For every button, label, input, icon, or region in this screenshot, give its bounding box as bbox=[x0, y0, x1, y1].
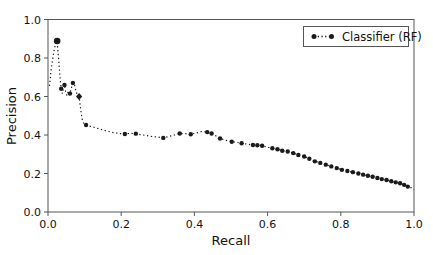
svg-text:0.0: 0.0 bbox=[39, 218, 57, 231]
legend-marker-line-icon bbox=[310, 32, 336, 41]
svg-text:0.6: 0.6 bbox=[259, 218, 277, 231]
y-axis-label: Precision bbox=[4, 87, 19, 145]
svg-text:0.6: 0.6 bbox=[24, 91, 42, 104]
x-axis-label: Recall bbox=[48, 233, 414, 248]
legend-label: Classifier (RF) bbox=[342, 30, 422, 44]
svg-text:0.0: 0.0 bbox=[24, 206, 42, 219]
svg-text:0.4: 0.4 bbox=[24, 129, 42, 142]
legend: Classifier (RF) bbox=[303, 26, 409, 47]
svg-text:0.2: 0.2 bbox=[24, 168, 42, 181]
svg-text:1.0: 1.0 bbox=[24, 14, 42, 27]
svg-text:1.0: 1.0 bbox=[405, 218, 423, 231]
pr-curve-figure: 0.00.20.40.60.81.00.00.20.40.60.81.0 Rec… bbox=[0, 0, 433, 255]
svg-text:0.8: 0.8 bbox=[332, 218, 350, 231]
svg-text:0.2: 0.2 bbox=[112, 218, 130, 231]
svg-text:0.4: 0.4 bbox=[186, 218, 204, 231]
svg-text:0.8: 0.8 bbox=[24, 52, 42, 65]
